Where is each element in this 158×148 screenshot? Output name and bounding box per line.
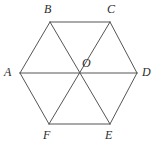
center-label-o: O [82, 57, 91, 69]
hexagon-diagonals [20, 22, 137, 124]
vertex-label-b: B [44, 3, 51, 15]
vertex-label-a: A [4, 66, 11, 78]
vertex-label-e: E [105, 129, 112, 141]
hexagon-diagram-svg [0, 0, 158, 148]
vertex-label-c: C [107, 3, 115, 15]
vertex-label-f: F [43, 129, 50, 141]
hexagon-edge-de [110, 73, 137, 124]
vertex-label-d: D [142, 66, 151, 78]
hexagon-edge-cd [110, 22, 137, 73]
hexagon-edge-ab [20, 22, 50, 73]
geometry-figure: ABCDEFO [0, 0, 158, 148]
hexagon-edge-fa [20, 73, 49, 124]
